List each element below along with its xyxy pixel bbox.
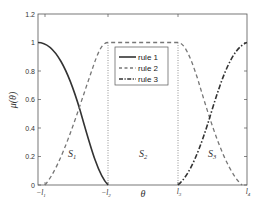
region-label-s2: S2 xyxy=(139,148,148,160)
y-tick-0.8: 0.8 xyxy=(25,68,35,75)
x-tick-l4: l4 xyxy=(246,187,251,197)
membership-chart: 0 0.2 0.4 0.6 0.8 1 1.2 μ(θ) −l1 −l2 l3 … xyxy=(0,0,263,209)
y-tick-1.2: 1.2 xyxy=(25,11,35,18)
series-rule-3 xyxy=(178,43,247,186)
legend-label-rule-3: rule 3 xyxy=(138,75,159,84)
series-rule-1 xyxy=(38,43,108,186)
y-tick-1: 1 xyxy=(31,39,35,46)
x-ticks xyxy=(45,14,178,185)
legend-label-rule-1: rule 1 xyxy=(138,53,159,62)
y-tick-0.4: 0.4 xyxy=(25,125,35,132)
y-tick-0.6: 0.6 xyxy=(25,96,35,103)
region-label-s1: S1 xyxy=(68,148,76,160)
x-tick-l3: l3 xyxy=(177,187,182,197)
x-axis-label: θ xyxy=(141,188,146,199)
legend-label-rule-2: rule 2 xyxy=(138,64,159,73)
y-tick-0: 0 xyxy=(31,182,35,189)
x-tick-neg-l2: −l2 xyxy=(101,188,111,198)
y-tick-0.2: 0.2 xyxy=(25,153,35,160)
y-axis-label: μ(θ) xyxy=(7,91,19,109)
legend: rule 1 rule 2 rule 3 xyxy=(115,47,168,85)
x-tick-neg-l1: −l1 xyxy=(36,188,46,198)
region-label-s3: S3 xyxy=(208,148,217,160)
